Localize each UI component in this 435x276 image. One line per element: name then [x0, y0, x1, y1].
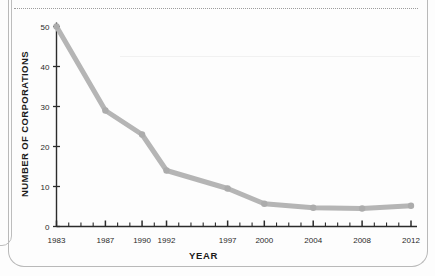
data-point-marker: [310, 205, 316, 211]
data-point-marker: [53, 23, 59, 29]
x-tick-label: 1987: [96, 236, 114, 245]
x-tick-label: 2000: [255, 236, 273, 245]
page-background: 0102030405019831987199019921997200020042…: [0, 0, 435, 276]
line-chart: 0102030405019831987199019921997200020042…: [0, 0, 435, 276]
y-tick-label: 20: [41, 143, 50, 152]
data-point-marker: [102, 107, 108, 113]
data-point-marker: [139, 131, 145, 137]
data-point-marker: [163, 167, 169, 173]
data-point-marker: [261, 201, 267, 207]
y-tick-label: 10: [41, 183, 50, 192]
data-point-marker: [359, 205, 365, 211]
data-point-marker: [224, 185, 230, 191]
y-tick-label: 30: [41, 103, 50, 112]
x-tick-label: 2004: [304, 236, 322, 245]
data-point-marker: [408, 203, 414, 209]
chart-svg: 0102030405019831987199019921997200020042…: [0, 0, 435, 276]
x-tick-label: 1990: [133, 236, 151, 245]
y-tick-label: 50: [41, 23, 50, 32]
x-tick-label: 1997: [219, 236, 237, 245]
y-tick-label: 40: [41, 63, 50, 72]
x-axis-title-text: YEAR: [189, 250, 218, 261]
x-tick-label: 1992: [158, 236, 176, 245]
x-tick-label: 2008: [353, 236, 371, 245]
y-axis-title: NUMBER OF CORPORATIONS: [17, 36, 31, 212]
data-series-line: [57, 27, 412, 209]
x-tick-label: 2012: [402, 236, 420, 245]
y-tick-label: 0: [45, 223, 50, 232]
x-axis-title: YEAR: [0, 250, 435, 261]
x-tick-label: 1983: [48, 236, 66, 245]
